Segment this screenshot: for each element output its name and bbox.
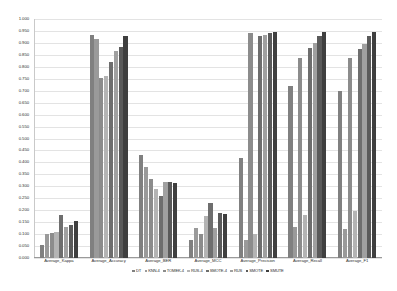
bar <box>159 196 163 258</box>
bar <box>244 240 248 258</box>
bar-group <box>84 19 134 258</box>
legend-label: TOMEK-4 <box>167 269 184 273</box>
legend-label: KNN-4 <box>148 269 160 273</box>
bar-group-inner <box>238 19 277 258</box>
x-axis-category-label: Average_Accuracy <box>84 259 134 263</box>
bar-group-inner <box>288 19 327 258</box>
x-axis-category-label: Average_Kappa <box>34 259 84 263</box>
bar <box>40 245 44 258</box>
y-axis-tick-label: 0.750 <box>19 77 29 81</box>
bar <box>168 182 172 258</box>
y-axis-tick-label: 0.500 <box>19 136 29 140</box>
y-axis-tick-label: 0.950 <box>19 29 29 33</box>
bar <box>114 51 118 258</box>
bar <box>194 228 198 258</box>
bar-group-inner <box>189 19 228 258</box>
bar <box>189 240 193 258</box>
bar <box>104 76 108 258</box>
legend-item[interactable]: TOMEK-4 <box>163 269 184 273</box>
bar <box>109 62 113 258</box>
bar-group <box>133 19 183 258</box>
legend-item[interactable]: RUS <box>230 269 242 273</box>
bar <box>204 216 208 258</box>
bar <box>348 58 352 258</box>
bar-group <box>332 19 382 258</box>
bar <box>213 228 217 258</box>
y-axis-tick-label: 0.250 <box>19 196 29 200</box>
bar <box>144 167 148 258</box>
x-axis-category-label: Average_Recall <box>283 259 333 263</box>
bar <box>99 78 103 258</box>
bar <box>253 234 257 258</box>
bar <box>273 32 277 258</box>
legend-item[interactable]: SMOTE-4 <box>206 269 227 273</box>
bar <box>64 227 68 258</box>
x-axis-category-labels: Average_KappaAverage_AccuracyAverage_BER… <box>34 259 382 263</box>
bar <box>308 48 312 258</box>
bar <box>288 86 292 258</box>
bar-group-inner <box>89 19 128 258</box>
plot-area <box>34 19 382 258</box>
bar <box>263 35 267 258</box>
y-axis-tick-label: 0.650 <box>19 100 29 104</box>
bar <box>123 36 127 258</box>
bar <box>69 225 73 258</box>
bar-group-inner <box>338 19 377 258</box>
y-axis-tick-label: 0.800 <box>19 65 29 69</box>
bar <box>317 36 321 258</box>
bar <box>223 214 227 258</box>
x-axis-category-label: Average_Precision <box>233 259 283 263</box>
legend-swatch-icon <box>246 270 249 273</box>
bar <box>74 221 78 258</box>
bar-group-inner <box>139 19 178 258</box>
y-axis-tick-label: 0.100 <box>19 232 29 236</box>
bar <box>59 215 63 258</box>
bar <box>258 36 262 258</box>
legend-swatch-icon <box>266 270 269 273</box>
bar <box>54 232 58 258</box>
y-axis-tick-label: 0.550 <box>19 124 29 128</box>
bar <box>293 227 297 258</box>
bar <box>50 233 54 258</box>
legend-swatch-icon <box>132 270 135 273</box>
bar <box>367 36 371 258</box>
bar-group <box>283 19 333 258</box>
bar <box>268 33 272 258</box>
bar-group <box>233 19 283 258</box>
y-axis-tick-label: 0.900 <box>19 41 29 45</box>
legend-item[interactable]: DT <box>132 269 141 273</box>
legend-item[interactable]: KNN-4 <box>145 269 160 273</box>
bar <box>362 44 366 258</box>
bar <box>154 189 158 258</box>
y-axis-tick-label: 1.000 <box>19 17 29 21</box>
bar <box>358 49 362 258</box>
bar-group-inner <box>39 19 78 258</box>
bar <box>372 32 376 258</box>
x-axis-category-label: Average_BER <box>133 259 183 263</box>
legend-item[interactable]: SMOTE <box>246 269 263 273</box>
legend-swatch-icon <box>145 270 148 273</box>
legend-item[interactable]: SMUTE <box>266 269 283 273</box>
chart-legend: DTKNN-4TOMEK-4RUS-4SMOTE-4RUSSMOTESMUTE <box>34 269 382 273</box>
legend-label: SMOTE-4 <box>210 269 227 273</box>
bar <box>173 183 177 258</box>
bar-group <box>183 19 233 258</box>
y-axis-tick-label: 0.150 <box>19 220 29 224</box>
x-axis-category-label: Average_MCC <box>183 259 233 263</box>
legend-label: RUS <box>234 269 242 273</box>
bar-group <box>34 19 84 258</box>
bar <box>218 213 222 258</box>
y-axis-tick-label: 0.200 <box>19 208 29 212</box>
bar <box>338 91 342 258</box>
bar <box>303 215 307 258</box>
bar <box>208 203 212 258</box>
bar <box>343 229 347 258</box>
bar <box>313 43 317 258</box>
y-axis-tick-label: 0.050 <box>19 244 29 248</box>
legend-label: RUS-4 <box>191 269 203 273</box>
legend-item[interactable]: RUS-4 <box>187 269 202 273</box>
bar <box>248 33 252 258</box>
legend-swatch-icon <box>206 270 209 273</box>
bar <box>353 211 357 258</box>
x-axis-category-label: Average_F1 <box>332 259 382 263</box>
